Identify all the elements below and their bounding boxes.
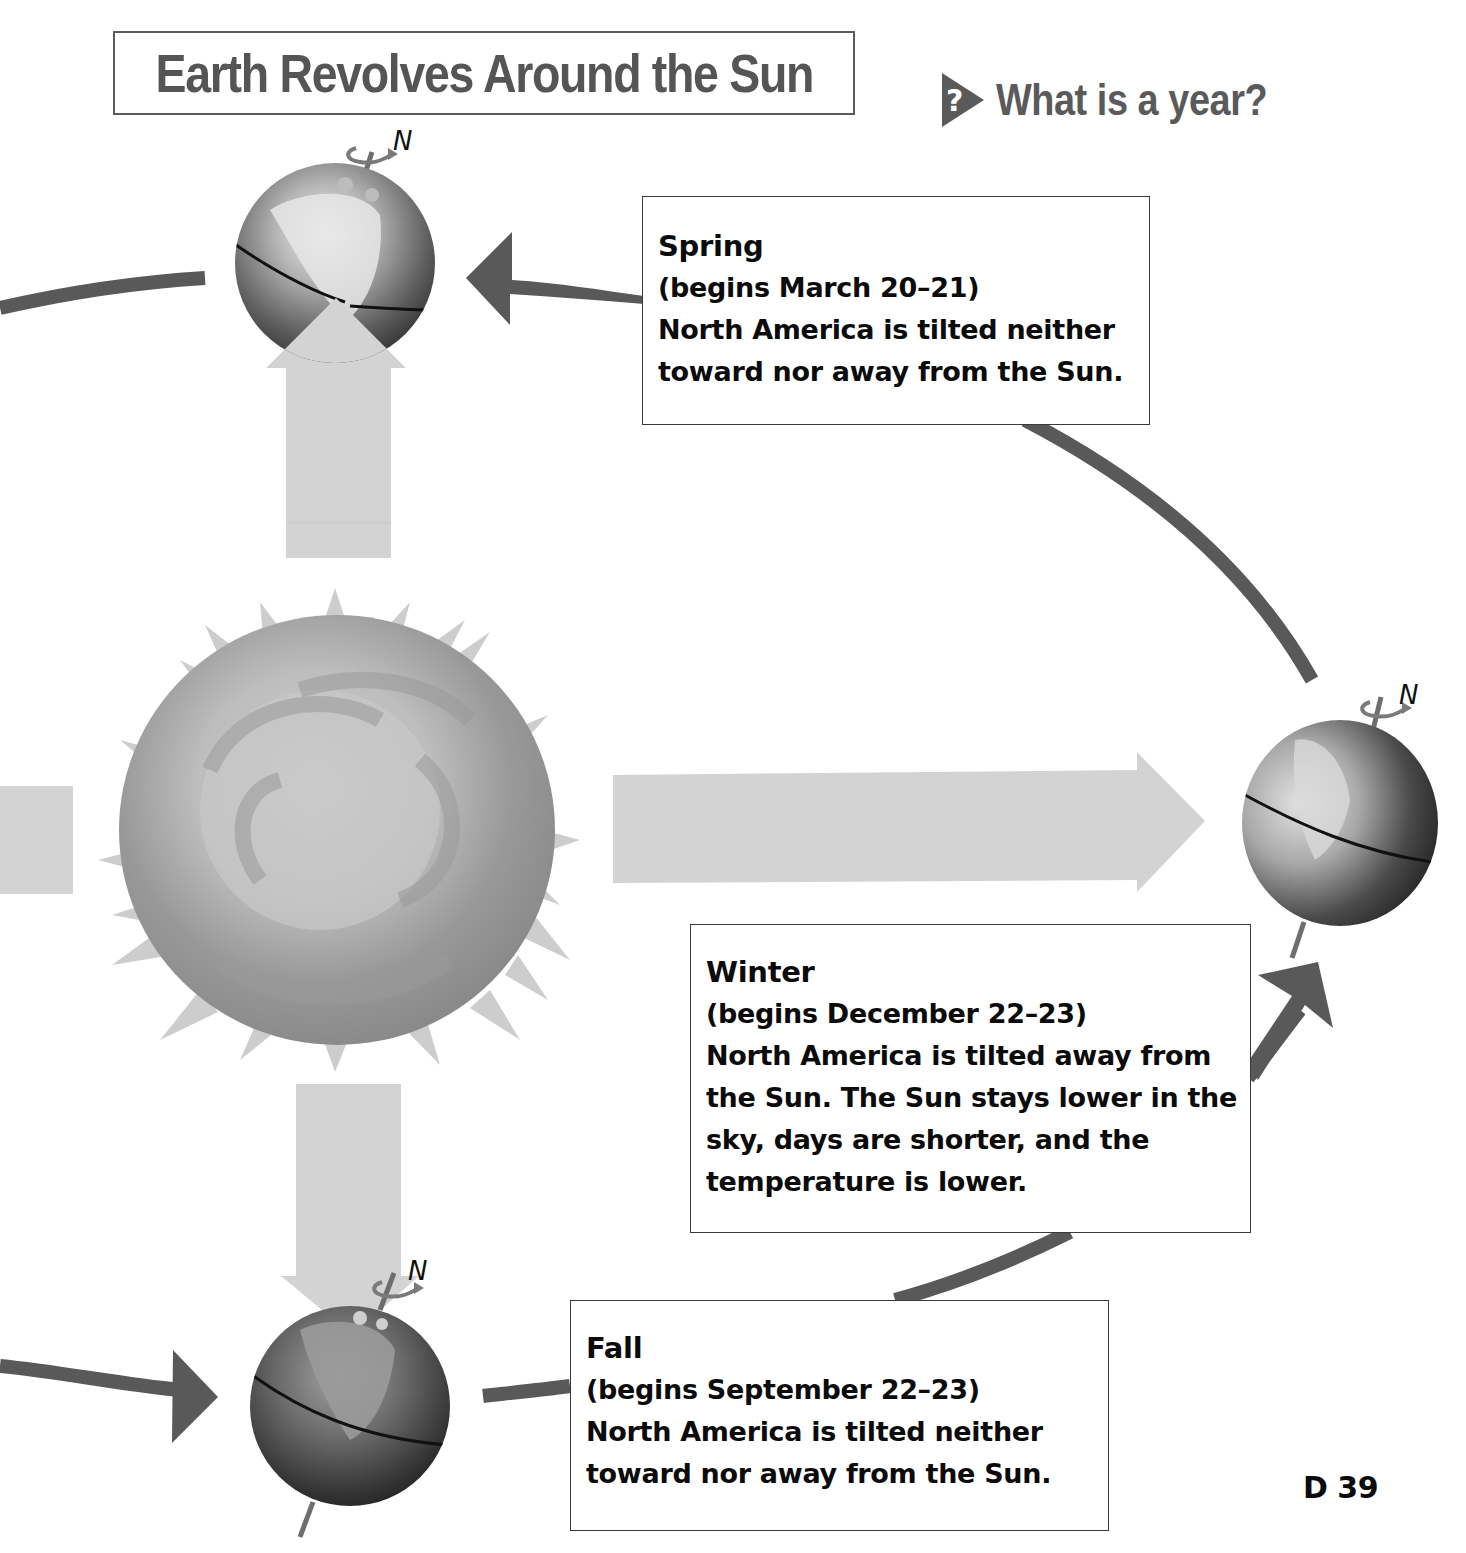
page-number: D 39 bbox=[1303, 1470, 1378, 1505]
season-description: North America is tilted away from the Su… bbox=[706, 1035, 1240, 1203]
north-label-winter: N bbox=[1399, 680, 1418, 710]
season-description: North America is tilted neither toward n… bbox=[658, 309, 1139, 393]
season-box-fall: Fall (begins September 22–23) North Amer… bbox=[570, 1300, 1109, 1531]
season-dates: (begins December 22–23) bbox=[706, 993, 1240, 1035]
sunlight-arrow-right-icon bbox=[613, 752, 1205, 892]
question-arrow-icon: ? bbox=[940, 71, 986, 129]
north-label-spring: N bbox=[393, 126, 412, 156]
orbit-arrow-upright-icon bbox=[1248, 962, 1333, 1080]
orbit-arrow-right-icon bbox=[172, 1350, 218, 1443]
earth-fall bbox=[250, 1273, 450, 1537]
svg-text:?: ? bbox=[946, 83, 963, 118]
earth-winter bbox=[1242, 697, 1438, 958]
season-dates: (begins September 22–23) bbox=[586, 1369, 1098, 1411]
season-box-spring: Spring (begins March 20–21) North Americ… bbox=[642, 196, 1150, 425]
season-name: Spring bbox=[658, 225, 1139, 267]
question-heading: ? What is a year? bbox=[940, 70, 1311, 130]
season-description: North America is tilted neither toward n… bbox=[586, 1411, 1098, 1495]
page-title: Earth Revolves Around the Sun bbox=[155, 42, 813, 104]
question-text: What is a year? bbox=[996, 75, 1267, 125]
sunlight-arrow-left-icon bbox=[0, 786, 73, 894]
season-name: Fall bbox=[586, 1327, 1098, 1369]
orbit-arrow-left-icon bbox=[466, 232, 644, 325]
season-name: Winter bbox=[706, 951, 1240, 993]
north-label-fall: N bbox=[408, 1256, 427, 1286]
earth-spring bbox=[235, 148, 435, 368]
title-box: Earth Revolves Around the Sun bbox=[113, 31, 855, 115]
season-dates: (begins March 20–21) bbox=[658, 267, 1139, 309]
season-box-winter: Winter (begins December 22–23) North Ame… bbox=[690, 924, 1251, 1233]
sun bbox=[98, 588, 580, 1072]
